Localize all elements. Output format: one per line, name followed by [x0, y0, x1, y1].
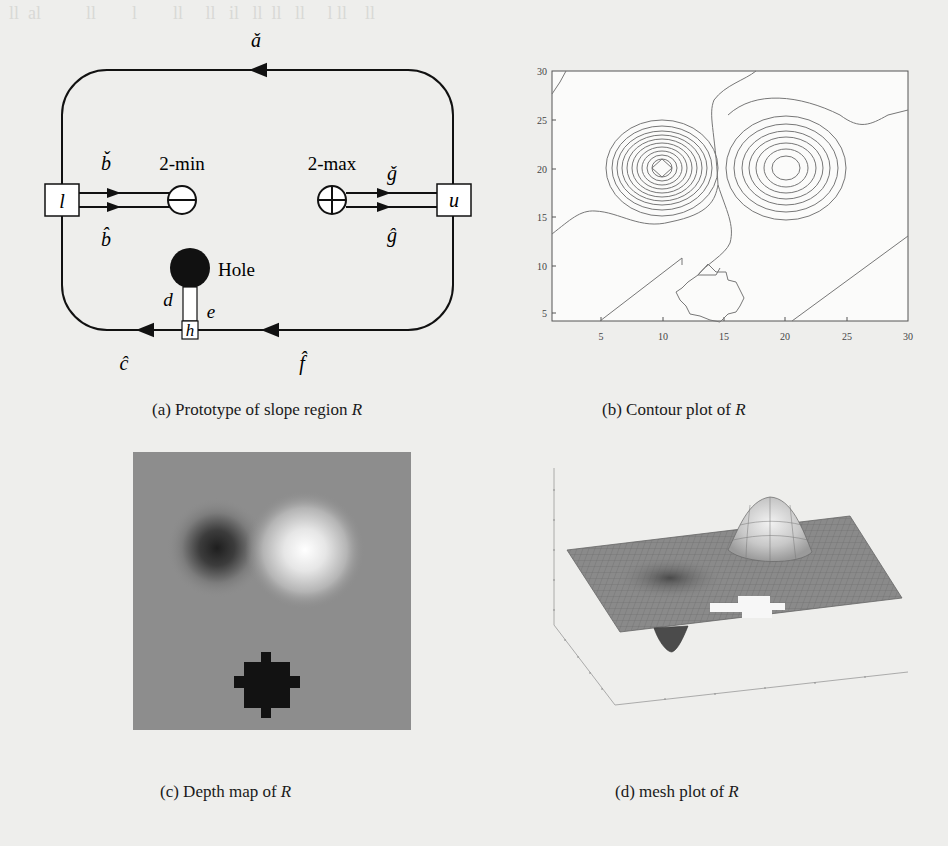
depth-maximum-blob: [245, 490, 365, 610]
f-hat-label: f̂: [299, 351, 308, 375]
svg-text:30: 30: [903, 331, 913, 342]
caption-a: (a) Prototype of slope region R: [152, 400, 362, 420]
e-label: e: [207, 301, 215, 322]
svg-text:20: 20: [537, 164, 547, 175]
b-hat-label: b̂: [101, 227, 111, 250]
caption-c-text: (c) Depth map of: [160, 782, 281, 801]
mesh-pit: [615, 556, 725, 600]
caption-d: (d) mesh plot of R: [615, 782, 739, 802]
caption-b-text: (b) Contour plot of: [602, 400, 735, 419]
depth-map: [133, 452, 411, 730]
hole-marker: [170, 248, 210, 288]
b-check-label: b̌: [101, 151, 111, 174]
svg-text:10: 10: [658, 331, 668, 342]
svg-text:5: 5: [542, 308, 547, 319]
c-hat-label: ĉ: [120, 352, 130, 374]
x-axis-ticks: 5 10 15 20 25 30: [599, 331, 914, 342]
svg-text:15: 15: [719, 331, 729, 342]
caption-a-text: (a) Prototype of slope region: [152, 400, 352, 419]
u-box-label: u: [449, 189, 459, 211]
a-check-label: ǎ: [251, 29, 261, 51]
caption-c: (c) Depth map of R: [160, 782, 291, 802]
caption-b: (b) Contour plot of R: [602, 400, 746, 420]
svg-text:30: 30: [537, 66, 547, 77]
hole-label: Hole: [218, 259, 255, 280]
min-label: 2-min: [159, 153, 205, 174]
outer-boundary: [62, 70, 453, 330]
g-hat-label: ĝ: [387, 224, 397, 247]
l-box-label: l: [59, 190, 65, 212]
svg-text:15: 15: [537, 212, 547, 223]
mesh-plot: [520, 440, 948, 750]
svg-text:25: 25: [842, 331, 852, 342]
caption-d-text: (d) mesh plot of: [615, 782, 728, 801]
contour-plot: 30 25 20 15 10 5 5 10 15 20 25 30: [530, 60, 948, 360]
svg-text:5: 5: [599, 331, 604, 342]
max-label: 2-max: [308, 153, 357, 174]
svg-text:25: 25: [537, 115, 547, 126]
svg-text:20: 20: [780, 331, 790, 342]
svg-text:10: 10: [537, 261, 547, 272]
caption-c-var: R: [281, 782, 291, 801]
y-axis-ticks: 30 25 20 15 10 5: [537, 66, 547, 319]
d-label: d: [163, 289, 173, 310]
caption-b-var: R: [735, 400, 745, 419]
slope-region-diagram: l u h ǎ b̌ b̂ 2-min 2-max ǧ ĝ Hole d e ĉ…: [0, 0, 520, 400]
caption-d-var: R: [728, 782, 738, 801]
g-check-label: ǧ: [387, 162, 397, 185]
h-label: h: [186, 321, 195, 340]
caption-a-var: R: [352, 400, 362, 419]
